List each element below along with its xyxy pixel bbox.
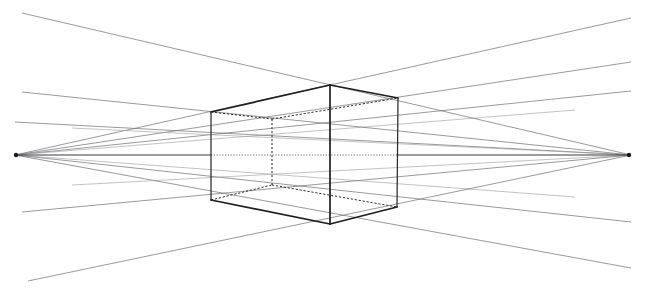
perspective-drawing-canvas bbox=[0, 0, 649, 298]
left-vanishing-point bbox=[14, 153, 18, 157]
right-vanishing-point bbox=[627, 153, 631, 157]
